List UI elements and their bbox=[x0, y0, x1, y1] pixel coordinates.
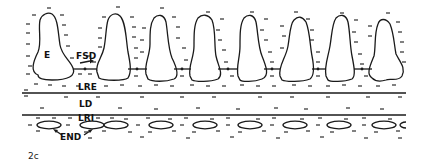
label-fsd: FSD bbox=[76, 51, 96, 61]
panel-label: 2c bbox=[28, 151, 39, 161]
label-end: END bbox=[60, 132, 81, 142]
label-lre: LRE bbox=[78, 82, 97, 92]
label-lri: LRI bbox=[78, 113, 94, 123]
cell-shape bbox=[280, 17, 314, 81]
cell-shapes bbox=[33, 13, 403, 81]
cell-shape bbox=[325, 15, 354, 81]
cell-shape bbox=[33, 13, 74, 80]
cell-shape bbox=[190, 15, 221, 81]
cell-shape bbox=[369, 20, 403, 82]
label-e: E bbox=[44, 50, 50, 60]
fsd-arrow bbox=[80, 61, 90, 63]
cell-shape bbox=[237, 15, 266, 81]
diagram: E FSD LRE LD LRI END 2c bbox=[0, 0, 425, 165]
cell-shape bbox=[146, 15, 177, 81]
label-ld: LD bbox=[79, 99, 92, 109]
